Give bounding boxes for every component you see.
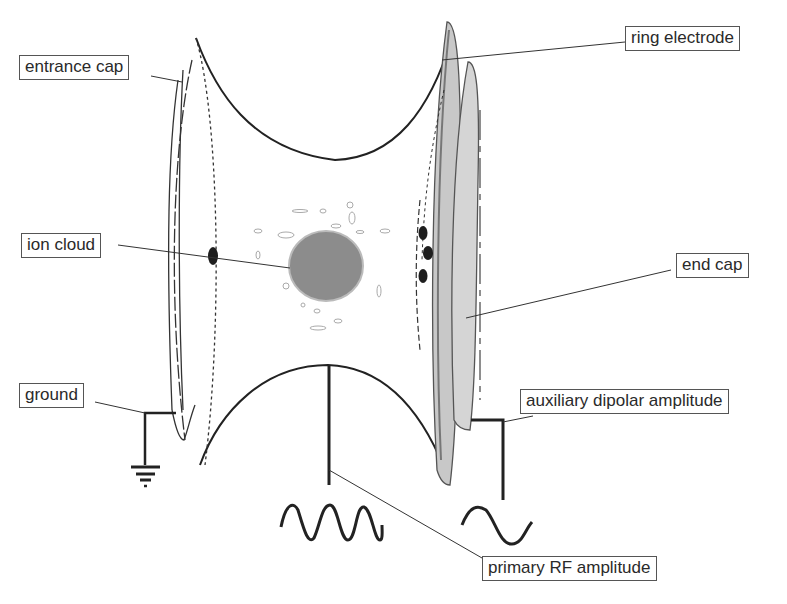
- ring-electrode-upper-curve: [196, 38, 452, 160]
- label-primary-rf-amplitude: primary RF amplitude: [482, 556, 657, 581]
- ring-electrode-lower-curve: [200, 365, 445, 470]
- leader-ring-electrode: [442, 42, 625, 60]
- leader-entrance-cap: [151, 76, 182, 82]
- end-cap-ion-dots: [419, 226, 434, 283]
- leader-end-cap: [466, 270, 671, 318]
- label-ring-electrode: ring electrode: [625, 26, 740, 51]
- leader-dipolar: [503, 416, 533, 422]
- ground-symbol: [131, 413, 176, 486]
- label-auxiliary-dipolar-amplitude: auxiliary dipolar amplitude: [520, 389, 729, 414]
- label-ground: ground: [19, 383, 84, 408]
- leader-ground: [95, 402, 145, 413]
- dipolar-waveform-icon: [462, 507, 532, 544]
- leader-ion-cloud: [118, 245, 290, 268]
- label-ion-cloud: ion cloud: [21, 233, 101, 258]
- ion-trap-diagram: [0, 0, 787, 604]
- leader-primary-rf: [329, 470, 482, 558]
- label-end-cap: end cap: [676, 253, 749, 278]
- rf-waveform-icon: [281, 505, 382, 540]
- entrance-ion-dot: [208, 247, 218, 265]
- label-entrance-cap: entrance cap: [19, 55, 129, 80]
- dipolar-wire: [471, 420, 503, 500]
